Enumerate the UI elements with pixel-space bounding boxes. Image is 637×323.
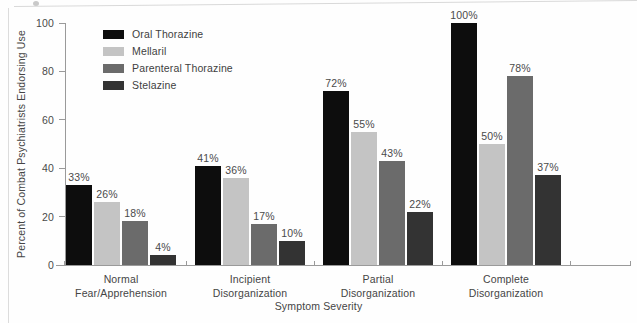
- bar-wrapper: 33%: [66, 23, 92, 265]
- bar-value-label: 55%: [353, 118, 375, 130]
- bar-group: 100%50%78%37%: [451, 23, 569, 265]
- y-tick: 100: [36, 17, 66, 29]
- bar[interactable]: [195, 166, 221, 265]
- x-category-label: IncipientDisorganization: [180, 272, 320, 300]
- bar-wrapper: 50%: [479, 23, 505, 265]
- x-tick-mark: [64, 261, 65, 266]
- legend-label: Oral Thorazine: [132, 28, 203, 40]
- scan-artifact-top-line: [14, 0, 637, 7]
- bar[interactable]: [379, 161, 405, 265]
- legend-item[interactable]: Oral Thorazine: [103, 26, 233, 42]
- x-axis-line: [56, 265, 631, 266]
- x-category-label: NormalFear/Apprehension: [51, 272, 191, 300]
- bar[interactable]: [150, 255, 176, 265]
- legend-swatch-icon: [103, 47, 124, 56]
- y-tick-mark: [59, 119, 66, 120]
- y-axis-title-text: Percent of Combat Psychiatrists Endorsin…: [15, 30, 27, 258]
- y-tick: 80: [42, 65, 66, 77]
- bar-value-label: 18%: [124, 207, 146, 219]
- legend-swatch-icon: [103, 64, 124, 73]
- y-tick: 40: [42, 162, 66, 174]
- bar[interactable]: [279, 241, 305, 265]
- bar-value-label: 78%: [509, 62, 531, 74]
- x-category-label-line: Disorganization: [436, 286, 576, 300]
- bar-wrapper: 10%: [279, 23, 305, 265]
- bar-value-label: 17%: [253, 210, 275, 222]
- x-tick-mark: [314, 261, 315, 266]
- y-tick-label: 20: [42, 211, 54, 223]
- y-tick-label: 40: [42, 162, 54, 174]
- bar-value-label: 22%: [409, 198, 431, 210]
- bar-value-label: 33%: [68, 171, 90, 183]
- chart-page: Percent of Combat Psychiatrists Endorsin…: [0, 0, 637, 323]
- bar-wrapper: 37%: [535, 23, 561, 265]
- x-tick-mark: [570, 261, 571, 266]
- x-tick-mark: [186, 261, 187, 266]
- y-tick-mark: [59, 23, 66, 24]
- bar[interactable]: [323, 91, 349, 265]
- bar-value-label: 72%: [325, 77, 347, 89]
- bar-wrapper: 55%: [351, 23, 377, 265]
- bar-wrapper: 72%: [323, 23, 349, 265]
- y-tick-label: 60: [42, 114, 54, 126]
- legend-item[interactable]: Mellaril: [103, 43, 233, 59]
- bar[interactable]: [507, 76, 533, 265]
- chart-legend: Oral ThorazineMellarilParenteral Thorazi…: [103, 26, 233, 94]
- bar-value-label: 43%: [381, 147, 403, 159]
- bar-value-label: 50%: [481, 130, 503, 142]
- bar[interactable]: [251, 224, 277, 265]
- y-tick-label: 80: [42, 65, 54, 77]
- x-category-label: PartialDisorganization: [308, 272, 448, 300]
- y-tick-label: 0: [48, 259, 54, 271]
- bar-wrapper: 17%: [251, 23, 277, 265]
- y-tick-mark: [59, 168, 66, 169]
- bar-value-label: 41%: [197, 152, 219, 164]
- y-tick-label: 100: [36, 17, 54, 29]
- scan-artifact-left-edge: [8, 8, 9, 323]
- scan-artifact-speck: [33, 1, 39, 6]
- legend-label: Mellaril: [132, 45, 166, 57]
- x-category-label-line: Incipient: [180, 272, 320, 286]
- bar-group: 72%55%43%22%: [323, 23, 441, 265]
- y-tick: 20: [42, 211, 66, 223]
- y-tick-mark: [59, 216, 66, 217]
- x-category-label-line: Fear/Apprehension: [51, 286, 191, 300]
- legend-label: Parenteral Thorazine: [132, 62, 233, 74]
- bar[interactable]: [479, 144, 505, 265]
- x-tick-mark: [630, 261, 631, 266]
- bar-wrapper: 78%: [507, 23, 533, 265]
- y-tick: 60: [42, 114, 66, 126]
- x-tick-mark: [442, 261, 443, 266]
- bar[interactable]: [351, 132, 377, 265]
- bar-wrapper: 43%: [379, 23, 405, 265]
- x-category-label-line: Disorganization: [180, 286, 320, 300]
- bar[interactable]: [94, 202, 120, 265]
- bar-value-label: 10%: [281, 227, 303, 239]
- bar-wrapper: 100%: [451, 23, 477, 265]
- y-tick-mark: [59, 71, 66, 72]
- x-category-label-line: Partial: [308, 272, 448, 286]
- bar[interactable]: [66, 185, 92, 265]
- bar[interactable]: [122, 221, 148, 265]
- bar-value-label: 37%: [537, 161, 559, 173]
- bar[interactable]: [407, 212, 433, 265]
- legend-item[interactable]: Stelazine: [103, 77, 233, 93]
- x-category-label-line: Complete: [436, 272, 576, 286]
- legend-label: Stelazine: [132, 79, 177, 91]
- bar-value-label: 100%: [450, 9, 478, 21]
- legend-item[interactable]: Parenteral Thorazine: [103, 60, 233, 76]
- legend-swatch-icon: [103, 81, 124, 90]
- legend-swatch-icon: [103, 30, 124, 39]
- y-axis-title: Percent of Combat Psychiatrists Endorsin…: [14, 23, 28, 265]
- bar[interactable]: [223, 178, 249, 265]
- x-axis-title: Symptom Severity: [0, 300, 637, 312]
- bar-value-label: 26%: [96, 188, 118, 200]
- bar-value-label: 4%: [155, 241, 171, 253]
- x-category-label-line: Normal: [51, 272, 191, 286]
- x-category-label-line: Disorganization: [308, 286, 448, 300]
- x-category-label: CompleteDisorganization: [436, 272, 576, 300]
- bar[interactable]: [535, 175, 561, 265]
- bar-wrapper: 22%: [407, 23, 433, 265]
- bar[interactable]: [451, 23, 477, 265]
- bar-value-label: 36%: [225, 164, 247, 176]
